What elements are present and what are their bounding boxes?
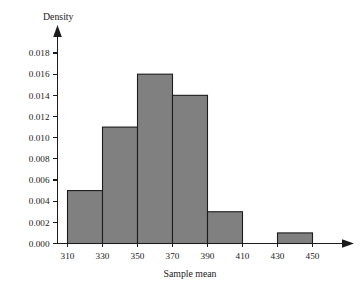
x-axis-arrow-icon	[342, 239, 354, 248]
histogram-bar	[278, 233, 313, 244]
bars-group	[68, 74, 313, 243]
x-axis-tick-label: 310	[61, 251, 75, 261]
y-axis-tick-label: 0.000	[29, 239, 50, 249]
histogram-figure: 0.0000.0020.0040.0060.0080.0100.0120.014…	[0, 0, 363, 289]
histogram-bar	[173, 95, 208, 243]
histogram-bar	[68, 191, 103, 244]
y-axis-tick-label: 0.004	[29, 196, 50, 206]
x-axis-tick-label: 330	[96, 251, 110, 261]
histogram-plot: 0.0000.0020.0040.0060.0080.0100.0120.014…	[0, 0, 363, 289]
x-axis-tick-label: 450	[306, 251, 320, 261]
histogram-bar	[138, 74, 173, 243]
x-axis-tick-label: 430	[271, 251, 285, 261]
y-axis-tick-label: 0.008	[29, 154, 50, 164]
x-axis-tick-label: 350	[131, 251, 145, 261]
y-axis-tick-label: 0.010	[29, 133, 50, 143]
x-axis-tick-label: 410	[236, 251, 250, 261]
y-axis-tick-label: 0.018	[29, 48, 50, 58]
histogram-bar	[208, 212, 243, 244]
x-axis-tick-label: 370	[166, 251, 180, 261]
x-axis-title: Sample mean	[163, 268, 216, 279]
y-axis-tick-label: 0.014	[29, 91, 50, 101]
histogram-bar	[103, 127, 138, 243]
y-axis-title: Density	[43, 11, 74, 22]
y-axis-tick-label: 0.012	[29, 112, 50, 122]
y-axis-tick-label: 0.016	[29, 69, 50, 79]
x-axis-tick-label: 390	[201, 251, 215, 261]
y-axis-tick-label: 0.002	[29, 218, 50, 228]
y-axis-tick-label: 0.006	[29, 175, 50, 185]
y-axis-arrow-icon	[53, 25, 62, 37]
